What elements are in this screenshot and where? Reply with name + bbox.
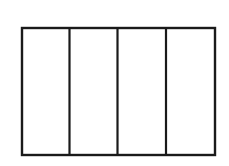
- divided-rectangle-diagram: [0, 0, 229, 166]
